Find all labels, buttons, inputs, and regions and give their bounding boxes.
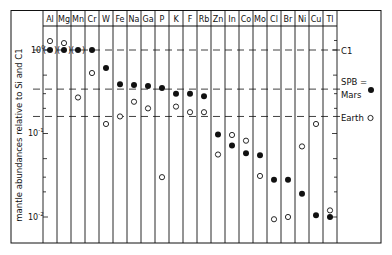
column-header-p: P xyxy=(160,15,165,24)
data-points: ()()() xyxy=(43,38,333,221)
legend-open-circle-icon xyxy=(368,115,373,120)
earth-point-ni xyxy=(299,144,304,149)
paren-right: ) xyxy=(82,46,85,55)
mars-point-na xyxy=(131,82,137,88)
column-header-co: Co xyxy=(241,15,252,24)
legend-spb-label-line1: SPB = xyxy=(341,77,367,87)
mars-point-in xyxy=(229,142,235,148)
earth-point-mn xyxy=(75,95,80,100)
legend-filled-circle-icon xyxy=(368,87,374,93)
y-axis-label: mantle abundances relative to Si and C1 xyxy=(14,48,24,221)
earth-point-cr xyxy=(89,70,94,75)
earth-point-na xyxy=(131,99,136,104)
earth-point-k xyxy=(173,104,178,109)
mars-point-tl xyxy=(327,214,333,220)
earth-point-f xyxy=(187,110,192,115)
earth-point-fe xyxy=(117,114,122,119)
column-header-mg: Mg xyxy=(58,15,70,24)
mars-point-mg xyxy=(61,47,67,53)
earth-point-br xyxy=(285,214,290,219)
y-tick-label-1e-1: 10-1 xyxy=(28,127,44,138)
legend: C1 SPB = Mars Earth xyxy=(341,46,374,123)
paren-left: ( xyxy=(71,46,74,55)
earth-point-mo xyxy=(257,173,262,178)
column-header-rb: Rb xyxy=(199,15,210,24)
earth-point-zn xyxy=(215,152,220,157)
mars-point-co xyxy=(243,150,249,156)
earth-point-cl xyxy=(271,217,276,222)
legend-spb-label-line2: Mars xyxy=(341,90,362,100)
mars-point-zn xyxy=(215,132,221,138)
outer-frame xyxy=(11,11,381,244)
element-header-row: AlMgMnCrWFeNaGaPKFRbZnInCoMoClBrNiCuTl xyxy=(43,15,337,26)
mars-point-mo xyxy=(257,152,263,158)
column-header-ni: Ni xyxy=(298,15,306,24)
column-header-zn: Zn xyxy=(213,15,224,24)
paren-left: ( xyxy=(57,46,60,55)
column-header-fe: Fe xyxy=(115,15,124,24)
earth-point-tl xyxy=(327,208,332,213)
column-header-mn: Mn xyxy=(72,15,84,24)
mars-point-ni xyxy=(299,191,305,197)
earth-point-in xyxy=(229,132,234,137)
earth-point-w xyxy=(103,121,108,126)
mars-point-ga xyxy=(145,83,151,89)
column-header-br: Br xyxy=(284,15,293,24)
column-header-ga: Ga xyxy=(142,15,153,24)
earth-point-rb xyxy=(201,110,206,115)
mars-point-cr xyxy=(89,47,95,53)
paren-left: ( xyxy=(43,46,46,55)
mars-point-mn xyxy=(75,47,81,53)
column-header-tl: Tl xyxy=(325,15,333,24)
mars-point-br xyxy=(285,177,291,183)
right-axis-ticks xyxy=(332,40,337,217)
mars-point-rb xyxy=(201,93,207,99)
earth-point-cu xyxy=(313,121,318,126)
earth-point-al xyxy=(47,38,52,43)
column-header-al: Al xyxy=(46,15,54,24)
left-axis-ticks xyxy=(43,50,48,217)
y-tick-label-1e-2: 10-2 xyxy=(28,211,44,222)
earth-point-co xyxy=(243,138,248,143)
column-header-k: K xyxy=(173,15,179,24)
column-header-w: W xyxy=(102,15,110,24)
column-header-mo: Mo xyxy=(254,15,266,24)
element-columns xyxy=(43,11,337,244)
abundance-chart: mantle abundances relative to Si and C1 … xyxy=(0,0,392,255)
earth-point-ga xyxy=(145,106,150,111)
c1-label: C1 xyxy=(341,46,352,56)
mars-point-k xyxy=(173,91,179,97)
column-header-cu: Cu xyxy=(311,15,322,24)
column-header-cl: Cl xyxy=(270,15,278,24)
earth-point-p xyxy=(159,175,164,180)
mars-point-w xyxy=(103,65,109,71)
column-header-f: F xyxy=(188,15,193,24)
mars-point-p xyxy=(159,85,165,91)
mars-point-cl xyxy=(271,177,277,183)
earth-point-mg xyxy=(61,40,66,45)
mars-point-cu xyxy=(313,212,319,218)
mars-point-f xyxy=(187,91,193,97)
column-header-na: Na xyxy=(129,15,140,24)
legend-earth-label: Earth xyxy=(341,113,364,123)
column-header-cr: Cr xyxy=(88,15,98,24)
mars-point-fe xyxy=(117,81,123,87)
mars-point-al xyxy=(47,47,53,53)
column-header-in: In xyxy=(228,15,235,24)
